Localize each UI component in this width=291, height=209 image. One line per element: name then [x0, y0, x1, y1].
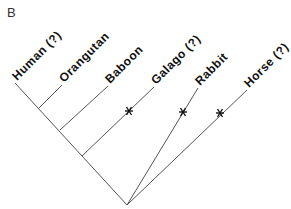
taxon-label-rabbit: Rabbit	[192, 50, 230, 88]
branch-galago	[82, 87, 154, 156]
branch-orangutan	[39, 85, 62, 108]
asterisk-marker-icon	[179, 108, 187, 116]
cladogram-figure: B Human (?)OrangutanBaboonGalago (?)Rabb…	[0, 0, 291, 209]
tree-diagram: Human (?)OrangutanBaboonGalago (?)Rabbit…	[0, 0, 291, 209]
taxon-label-baboon: Baboon	[102, 43, 146, 87]
branch-main-stem	[15, 83, 127, 205]
branch-baboon	[60, 86, 108, 130]
taxon-label-horse: Horse (?)	[241, 40, 291, 90]
branch-horse	[127, 90, 247, 205]
